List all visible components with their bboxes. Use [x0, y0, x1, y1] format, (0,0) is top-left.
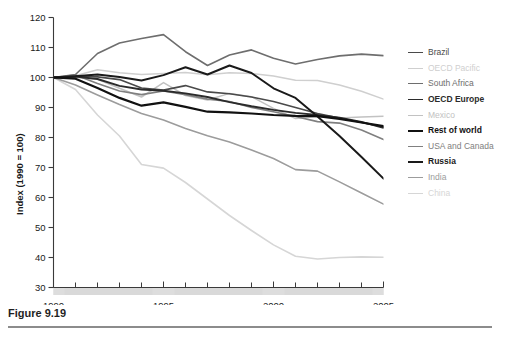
- legend-item-india[interactable]: India: [408, 170, 507, 186]
- legend-swatch-icon: [408, 115, 423, 116]
- x-tick-label: 2000: [263, 300, 284, 306]
- legend-swatch-icon: [408, 52, 423, 53]
- y-tick-label: 90: [35, 102, 46, 113]
- y-tick-label: 50: [35, 222, 46, 233]
- y-tick-label: 60: [35, 192, 46, 203]
- legend-label: USA and Canada: [428, 142, 494, 151]
- y-tick-label: 100: [30, 72, 46, 83]
- legend-label: Rest of world: [428, 126, 482, 135]
- x-tick-label: 1990: [43, 300, 64, 306]
- y-tick-label: 110: [30, 42, 45, 53]
- legend-label: OECD Pacific: [428, 64, 480, 73]
- legend-swatch-icon: [408, 193, 423, 194]
- legend-swatch-icon: [408, 177, 423, 178]
- legend-item-usa-and-canada[interactable]: USA and Canada: [408, 139, 507, 155]
- legend-label: Brazil: [428, 48, 449, 57]
- legend-swatch-icon: [408, 130, 423, 132]
- x-tick-label: 1995: [153, 300, 174, 306]
- legend-label: South Africa: [428, 79, 474, 88]
- legend-swatch-icon: [408, 146, 423, 147]
- y-tick-label: 120: [30, 12, 46, 23]
- x-axis-band-highlight: [373, 288, 384, 295]
- legend-item-china[interactable]: China: [408, 185, 507, 201]
- legend-item-south-africa[interactable]: South Africa: [408, 76, 507, 92]
- legend-item-mexico[interactable]: Mexico: [408, 107, 507, 123]
- legend-item-russia[interactable]: Russia: [408, 154, 507, 170]
- y-axis-title: Index (1990 = 100): [14, 133, 25, 215]
- x-axis-band: [54, 288, 384, 295]
- legend-swatch-icon: [408, 161, 423, 163]
- legend-swatch-icon: [408, 83, 423, 84]
- y-tick-label: 80: [35, 132, 46, 143]
- legend-item-brazil[interactable]: Brazil: [408, 45, 507, 61]
- legend-label: Russia: [428, 157, 456, 166]
- legend-label: China: [428, 189, 450, 198]
- figure-container: 304050607080901001101201990199520002005 …: [0, 0, 507, 339]
- legend-item-rest-of-world[interactable]: Rest of world: [408, 123, 507, 139]
- y-tick-label: 70: [35, 162, 46, 173]
- series-line-china: [54, 78, 384, 260]
- caption-divider: [8, 326, 492, 328]
- x-axis-band-highlight: [263, 288, 285, 295]
- legend-label: OECD Europe: [428, 95, 484, 104]
- legend-label: India: [428, 173, 446, 182]
- chart-legend: BrazilOECD PacificSouth AfricaOECD Europ…: [408, 45, 507, 201]
- series-group: [54, 35, 384, 259]
- y-tick-label: 40: [35, 252, 46, 263]
- legend-item-oecd-europe[interactable]: OECD Europe: [408, 92, 507, 108]
- x-axis-band-highlight: [54, 288, 65, 295]
- x-axis-band-highlight: [153, 288, 175, 295]
- legend-swatch-icon: [408, 68, 423, 69]
- y-tick-label: 30: [35, 282, 46, 293]
- legend-item-oecd-pacific[interactable]: OECD Pacific: [408, 61, 507, 77]
- x-tick-label: 2005: [373, 300, 394, 306]
- legend-swatch-icon: [408, 99, 423, 100]
- legend-label: Mexico: [428, 111, 455, 120]
- figure-caption: Figure 9.19: [8, 307, 66, 319]
